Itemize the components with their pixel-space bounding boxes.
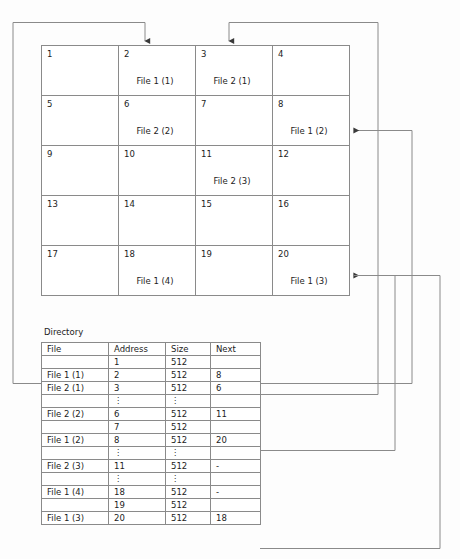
table-row: ⋮⋮	[42, 447, 261, 460]
cell-size: 512	[166, 486, 211, 499]
block-number: 15	[201, 199, 212, 209]
cell-size: ⋮	[166, 473, 211, 486]
connector-file1-next18-link	[260, 276, 440, 549]
cell-size: 512	[166, 460, 211, 473]
block-number: 12	[278, 149, 289, 159]
vertical-ellipsis: ⋮	[171, 397, 179, 405]
cell-file: File 2 (1)	[42, 382, 109, 395]
disk-block-7: 7	[196, 96, 273, 146]
cell-address: 20	[109, 512, 166, 525]
cell-address: 11	[109, 460, 166, 473]
cell-file	[42, 421, 109, 434]
disk-block-grid: 12File 1 (1)3File 2 (1)456File 2 (2)78Fi…	[41, 45, 350, 296]
cell-address: 3	[109, 382, 166, 395]
cell-size: 512	[166, 382, 211, 395]
disk-block-3: 3File 2 (1)	[196, 46, 273, 96]
cell-file: File 1 (3)	[42, 512, 109, 525]
directory-label: Directory	[44, 327, 83, 338]
cell-size: 512	[166, 369, 211, 382]
table-row: ⋮⋮	[42, 473, 261, 486]
disk-block-4: 4	[273, 46, 350, 96]
disk-block-20: 20File 1 (3)	[273, 246, 350, 296]
block-number: 6	[124, 99, 129, 109]
directory-table: File Address Size Next 1512File 1 (1)251…	[41, 342, 261, 525]
cell-address: 1	[109, 356, 166, 369]
disk-block-1: 1	[42, 46, 119, 96]
cell-file	[42, 395, 109, 408]
table-row: File 1 (2)851220	[42, 434, 261, 447]
cell-next	[211, 356, 261, 369]
cell-address: 2	[109, 369, 166, 382]
disk-block-12: 12	[273, 146, 350, 196]
cell-next: 6	[211, 382, 261, 395]
block-file-label: File 1 (1)	[119, 76, 191, 86]
cell-file: File 1 (4)	[42, 486, 109, 499]
cell-size: ⋮	[166, 447, 211, 460]
disk-block-15: 15	[196, 196, 273, 246]
disk-block-13: 13	[42, 196, 119, 246]
cell-next: 8	[211, 369, 261, 382]
cell-next	[211, 395, 261, 408]
block-number: 8	[278, 99, 283, 109]
block-number: 17	[47, 249, 58, 259]
block-number: 3	[201, 49, 206, 59]
block-number: 11	[201, 149, 212, 159]
cell-address: 6	[109, 408, 166, 421]
cell-next	[211, 421, 261, 434]
cell-file: File 1 (2)	[42, 434, 109, 447]
disk-block-14: 14	[119, 196, 196, 246]
cell-file	[42, 473, 109, 486]
cell-next: -	[211, 486, 261, 499]
cell-next	[211, 447, 261, 460]
block-number: 9	[47, 149, 52, 159]
column-header-address: Address	[109, 343, 166, 356]
cell-size: 512	[166, 356, 211, 369]
disk-block-18: 18File 1 (4)	[119, 246, 196, 296]
block-number: 18	[124, 249, 135, 259]
cell-size: 512	[166, 408, 211, 421]
cell-next	[211, 473, 261, 486]
block-file-label: File 2 (3)	[196, 176, 268, 186]
vertical-ellipsis: ⋮	[171, 449, 179, 457]
cell-next: -	[211, 460, 261, 473]
cell-next: 11	[211, 408, 261, 421]
cell-file	[42, 356, 109, 369]
column-header-file: File	[42, 343, 109, 356]
block-number: 4	[278, 49, 283, 59]
block-file-label: File 2 (2)	[119, 126, 191, 136]
block-file-label: File 2 (1)	[196, 76, 268, 86]
cell-file: File 2 (3)	[42, 460, 109, 473]
vertical-ellipsis: ⋮	[114, 449, 122, 457]
disk-block-16: 16	[273, 196, 350, 246]
cell-next: 18	[211, 512, 261, 525]
disk-block-10: 10	[119, 146, 196, 196]
block-file-label: File 1 (2)	[273, 126, 345, 136]
table-row: ⋮⋮	[42, 395, 261, 408]
table-row: File 1 (3)2051218	[42, 512, 261, 525]
cell-file: File 2 (2)	[42, 408, 109, 421]
block-file-label: File 1 (4)	[119, 276, 191, 286]
block-number: 1	[47, 49, 52, 59]
table-row: File 2 (3)11512-	[42, 460, 261, 473]
cell-file: File 1 (1)	[42, 369, 109, 382]
block-number: 5	[47, 99, 52, 109]
column-header-next: Next	[211, 343, 261, 356]
cell-next	[211, 499, 261, 512]
disk-block-11: 11File 2 (3)	[196, 146, 273, 196]
block-number: 16	[278, 199, 289, 209]
cell-address: ⋮	[109, 447, 166, 460]
disk-block-8: 8File 1 (2)	[273, 96, 350, 146]
table-header-row: File Address Size Next	[42, 343, 261, 356]
block-number: 20	[278, 249, 289, 259]
table-row: File 2 (1)35126	[42, 382, 261, 395]
cell-address: ⋮	[109, 473, 166, 486]
cell-next: 20	[211, 434, 261, 447]
table-row: File 1 (4)18512-	[42, 486, 261, 499]
cell-size: 512	[166, 421, 211, 434]
cell-size: 512	[166, 512, 211, 525]
disk-block-17: 17	[42, 246, 119, 296]
cell-size: 512	[166, 434, 211, 447]
cell-address: 19	[109, 499, 166, 512]
cell-size: ⋮	[166, 395, 211, 408]
cell-address: ⋮	[109, 395, 166, 408]
